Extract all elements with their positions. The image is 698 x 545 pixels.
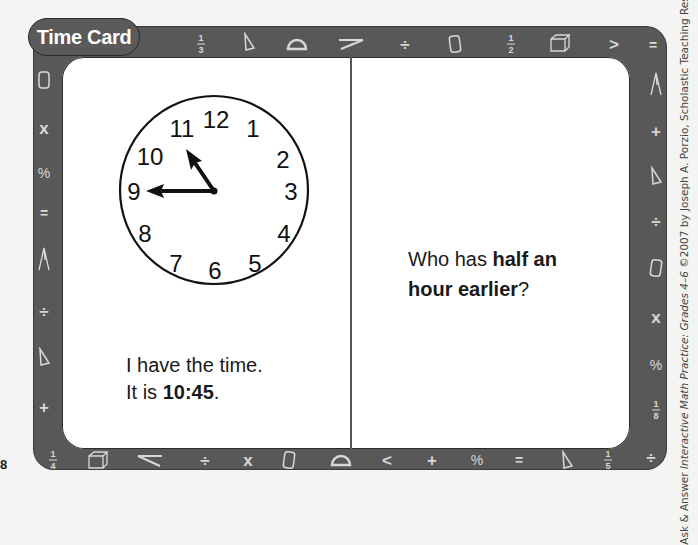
clock-numeral-1: 1 xyxy=(246,115,259,142)
clock-numeral-6: 6 xyxy=(208,257,221,284)
clock-numeral-4: 4 xyxy=(277,220,290,247)
cube-icon xyxy=(87,450,109,470)
clock-numeral-7: 7 xyxy=(169,250,182,277)
cone-icon xyxy=(560,450,574,470)
clock-numeral-8: 8 xyxy=(138,220,151,247)
clock-numeral-12: 12 xyxy=(203,106,230,133)
compass-pencil-icon xyxy=(136,452,164,468)
plus-icon: + xyxy=(427,452,437,469)
cone-icon xyxy=(649,166,663,186)
stated-time: 10:45 xyxy=(163,381,214,403)
divide-icon: ÷ xyxy=(200,452,209,469)
times-icon: x xyxy=(39,120,48,137)
center-divider xyxy=(350,57,352,449)
divide-icon: ÷ xyxy=(651,213,660,230)
divide-icon: ÷ xyxy=(39,303,48,320)
fraction-one-third-icon: 13 xyxy=(197,34,205,55)
percent-icon: % xyxy=(650,358,662,372)
cone-icon xyxy=(37,347,51,367)
copyright-credit: Ask & Answer Interactive Math Practice: … xyxy=(678,0,690,545)
protractor-icon xyxy=(330,453,352,467)
compass-icon xyxy=(649,71,663,97)
equals-icon: = xyxy=(40,206,48,220)
clock-numeral-2: 2 xyxy=(276,146,289,173)
statement-line-1: I have the time. xyxy=(126,352,263,379)
statement-line-2: It is 10:45. xyxy=(126,379,263,406)
cube-icon xyxy=(549,33,571,53)
fraction-one-fifth-icon: 15 xyxy=(604,450,612,471)
times-icon: x xyxy=(243,452,252,469)
plus-icon: + xyxy=(651,123,661,140)
protractor-icon xyxy=(286,37,308,51)
clock-numeral-5: 5 xyxy=(248,250,261,277)
clock-numeral-11: 11 xyxy=(170,115,195,142)
less-than-icon: < xyxy=(382,452,392,469)
fraction-one-quarter-icon: 14 xyxy=(49,450,57,471)
cylinder-icon xyxy=(648,258,664,278)
cone-icon xyxy=(242,32,256,52)
equals-icon: = xyxy=(515,453,523,467)
percent-icon: % xyxy=(471,453,483,467)
cylinder-icon xyxy=(448,34,462,54)
equals-icon: = xyxy=(649,38,657,52)
clock-numeral-9: 9 xyxy=(127,178,140,205)
time-statement: I have the time. It is 10:45. xyxy=(126,352,263,406)
divide-icon: ÷ xyxy=(400,36,409,53)
clock-numeral-3: 3 xyxy=(284,178,297,205)
compass-icon xyxy=(37,246,51,272)
plus-icon: + xyxy=(39,399,49,416)
card-title: Time Card xyxy=(28,18,140,56)
cylinder-icon xyxy=(282,450,296,470)
question: Who has half an hour earlier? xyxy=(408,244,557,304)
fraction-one-half-icon: 12 xyxy=(507,34,515,55)
times-icon: x xyxy=(651,309,660,326)
fraction-one-eighth-icon: 18 xyxy=(652,400,660,421)
greater-than-icon: > xyxy=(609,36,619,53)
divide-icon: ÷ xyxy=(646,449,655,466)
clock-numeral-10: 10 xyxy=(137,143,164,170)
cylinder-icon xyxy=(37,70,51,90)
percent-icon: % xyxy=(38,166,50,180)
analog-clock: 12 1 2 3 4 5 6 7 8 9 10 11 xyxy=(116,92,312,288)
page-number: 8 xyxy=(0,457,7,472)
compass-pencil-icon xyxy=(337,37,365,51)
